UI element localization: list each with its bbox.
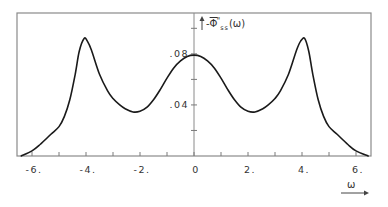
y-tick-label: .08 bbox=[169, 47, 189, 58]
x-tick-label: 6. bbox=[352, 164, 364, 175]
y-label-suffix: (ω) bbox=[229, 18, 245, 29]
x-tick-label: -2. bbox=[134, 164, 151, 175]
chart-canvas bbox=[0, 0, 388, 207]
y-label-subscript: ss bbox=[220, 24, 229, 32]
x-axis-arrow-icon bbox=[341, 191, 369, 196]
x-tick-label: -4. bbox=[80, 164, 97, 175]
x-tick-label: -6. bbox=[26, 164, 43, 175]
y-tick-label: .04 bbox=[169, 98, 189, 109]
x-tick-label: 4. bbox=[298, 164, 310, 175]
x-axis-ticks bbox=[32, 152, 356, 156]
x-tick-label: 0 bbox=[192, 164, 200, 175]
y-axis-label: -Φ"ss(ω) bbox=[202, 17, 245, 32]
x-tick-label: 2. bbox=[244, 164, 256, 175]
x-axis-label: ω bbox=[347, 179, 355, 190]
data-curve bbox=[21, 38, 368, 156]
